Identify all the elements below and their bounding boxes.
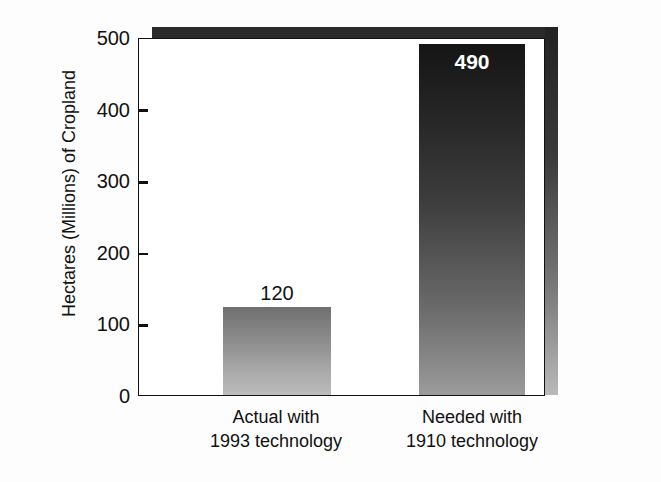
bar-chart-figure: Hectares (Millions) of Cropland 500 400 … <box>0 0 661 482</box>
y-tick-label-300: 300 <box>52 171 130 191</box>
x-category-line1: Actual with <box>232 407 319 427</box>
y-tick-mark-400 <box>139 109 148 112</box>
x-category-label-actual-1993: Actual with 1993 technology <box>164 406 388 454</box>
y-tick-mark-100 <box>139 324 148 327</box>
bar-value-label-120: 120 <box>223 283 331 303</box>
x-axis-category-labels: Actual with 1993 technology Needed with … <box>138 406 545 466</box>
y-tick-label-100: 100 <box>52 314 130 334</box>
chart-shadow-right <box>545 27 558 395</box>
bar-value-label-490: 490 <box>419 51 525 72</box>
bar-needed-1910 <box>419 44 525 395</box>
x-category-line2: 1993 technology <box>164 430 388 454</box>
y-tick-mark-300 <box>139 181 148 184</box>
plot-area: 120 490 <box>138 38 545 396</box>
y-tick-label-500: 500 <box>52 28 130 48</box>
y-axis-tick-labels: 500 400 300 200 100 0 <box>48 38 130 396</box>
x-category-label-needed-1910: Needed with 1910 technology <box>360 406 584 454</box>
y-tick-mark-200 <box>139 253 148 256</box>
bar-actual-1993 <box>223 307 331 395</box>
y-tick-label-0: 0 <box>52 386 130 406</box>
plot-inner: 120 490 <box>139 39 544 395</box>
y-tick-label-400: 400 <box>52 100 130 120</box>
x-category-line1: Needed with <box>422 407 522 427</box>
x-category-line2: 1910 technology <box>360 430 584 454</box>
y-tick-label-200: 200 <box>52 243 130 263</box>
